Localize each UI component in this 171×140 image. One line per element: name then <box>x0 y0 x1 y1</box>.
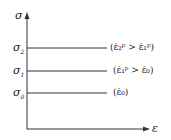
x-axis-arrow-icon <box>143 127 150 132</box>
condition-sigma0: (ε̇₀) <box>113 88 128 97</box>
label-sigma1: σ1 <box>13 65 24 78</box>
y-axis-label: σ <box>15 10 23 21</box>
label-sigma2: σ2 <box>13 42 24 55</box>
label-sigma0: σ0 <box>13 87 24 100</box>
condition-sigma2: (ε̇₂ᵖ > ε̇₁ᵖ) <box>110 43 154 52</box>
y-axis-arrow-icon <box>25 12 30 19</box>
condition-sigma1: (ε̇₁ᵖ > ε̇₀) <box>113 66 153 75</box>
x-axis-label: ε <box>152 123 158 134</box>
